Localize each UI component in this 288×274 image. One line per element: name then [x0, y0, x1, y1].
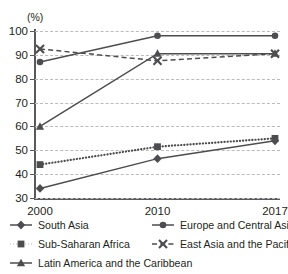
y-axis-tick-label: 60 — [15, 120, 28, 132]
legend-label: South Asia — [38, 220, 89, 231]
legend-item[interactable]: South Asia — [10, 219, 89, 231]
legend-marker-triangle-icon — [10, 257, 32, 269]
data-point-circle — [160, 222, 167, 229]
y-axis-tick-label: 40 — [15, 168, 28, 180]
legend-item[interactable]: Europe and Central Asia — [152, 219, 288, 231]
x-axis-tick-label: 2000 — [27, 205, 53, 217]
series-line — [40, 36, 275, 62]
data-point-diamond — [153, 154, 161, 163]
legend-marker-circle-icon — [152, 219, 174, 231]
y-axis-tick-label: 80 — [15, 73, 28, 85]
gridline — [35, 198, 280, 199]
line-chart-figure: 2000 to 2017 (%) 30405060708090100 20002… — [0, 0, 288, 274]
data-point-square — [154, 143, 161, 150]
y-axis-tick-label: 100 — [9, 25, 28, 37]
legend-item[interactable]: Sub-Saharan Africa — [10, 238, 130, 250]
legend-label: Latin America and the Caribbean — [38, 258, 192, 269]
legend-label: Europe and Central Asia — [180, 220, 288, 231]
y-axis-unit-label: (%) — [27, 11, 43, 23]
legend-item[interactable]: East Asia and the Pacific — [152, 238, 288, 250]
data-point-diamond — [36, 184, 44, 193]
legend-marker-diamond-icon — [10, 219, 32, 231]
chart-title: 2000 to 2017 — [0, 0, 288, 3]
plot-area: 30405060708090100 200020102017 — [35, 31, 280, 198]
legend-marker-x-icon — [152, 238, 174, 250]
legend-item[interactable]: Latin America and the Caribbean — [10, 257, 192, 269]
data-point-circle — [272, 32, 279, 39]
legend-label: East Asia and the Pacific — [180, 239, 288, 250]
data-point-square — [272, 135, 279, 142]
legend-marker-square-icon — [10, 238, 32, 250]
y-axis-tick-label: 90 — [15, 49, 28, 61]
y-axis-tick — [30, 198, 35, 199]
series-line — [40, 54, 275, 127]
x-axis-tick-label: 2017 — [262, 205, 288, 217]
data-point-x — [159, 240, 167, 248]
data-point-diamond — [17, 221, 25, 230]
data-point-circle — [37, 59, 44, 66]
y-axis-tick-label: 50 — [15, 144, 28, 156]
chart-legend: South AsiaSub-Saharan AfricaLatin Americ… — [0, 219, 288, 274]
data-point-circle — [154, 32, 161, 39]
x-axis-tick-label: 2010 — [145, 205, 171, 217]
series-layer — [35, 31, 280, 198]
data-point-triangle — [36, 122, 44, 130]
data-point-square — [37, 161, 44, 168]
legend-label: Sub-Saharan Africa — [38, 239, 130, 250]
y-axis-tick-label: 70 — [15, 97, 28, 109]
data-point-square — [18, 241, 25, 248]
y-axis-tick-label: 30 — [15, 192, 28, 204]
